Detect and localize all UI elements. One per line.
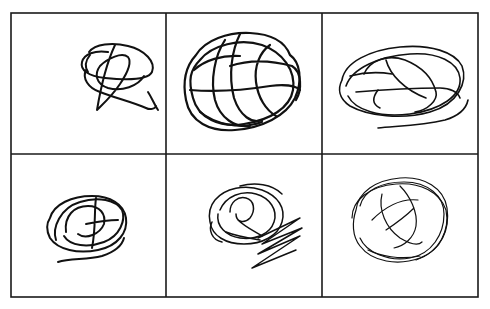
panel-3-scribble: [340, 46, 468, 128]
scribble-figure: [0, 0, 490, 309]
panel-6-scribble: [352, 178, 448, 262]
panel-1-scribble: [82, 44, 158, 110]
panel-2-scribble: [184, 33, 300, 130]
outer-border: [11, 13, 478, 297]
panel-4-scribble: [47, 196, 126, 262]
panel-5-scribble: [209, 184, 302, 268]
grid-frame: [11, 13, 478, 297]
